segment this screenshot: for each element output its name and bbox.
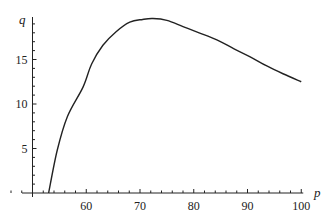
y-axis: 51015 <box>16 17 37 197</box>
x-tick-label: 60 <box>80 199 92 213</box>
y-tick-label: 10 <box>16 97 28 111</box>
y-tick-label: 5 <box>22 142 28 156</box>
x-tick-label: 100 <box>292 199 310 213</box>
x-tick-label: 90 <box>242 199 254 213</box>
x-tick-label: 80 <box>188 199 200 213</box>
data-curve <box>49 19 302 193</box>
x-tick-label: 70 <box>134 199 146 213</box>
x-axis: 60708090100 <box>11 189 310 213</box>
x-axis-label: p <box>313 185 321 200</box>
y-tick-label: 15 <box>16 53 28 67</box>
y-axis-label: q <box>19 12 26 27</box>
line-chart: 60708090100 51015 p q <box>0 0 336 219</box>
